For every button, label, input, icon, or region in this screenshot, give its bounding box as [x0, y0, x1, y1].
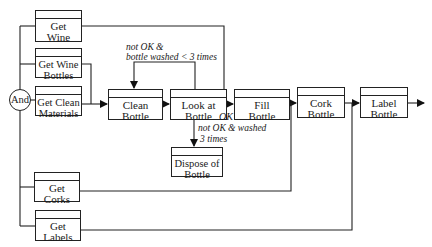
- get-clean-materials-box: Get Clean Materials: [35, 86, 82, 116]
- cork-bottle-label: Cork Bottle: [303, 96, 339, 120]
- get-wine-bottles-label: Get Wine Bottles: [36, 57, 81, 81]
- cork-bottle-box: Cork Bottle: [297, 87, 345, 118]
- fill-bottle-box: Fill Bottle: [234, 89, 290, 120]
- get-corks-box: Get Corks: [34, 172, 80, 202]
- get-clean-materials-label: Get Clean Materials: [36, 95, 81, 119]
- get-labels-label: Get Labels: [43, 219, 73, 243]
- box-header-bar: [361, 88, 407, 96]
- box-header-bar: [36, 49, 81, 57]
- box-header-bar: [235, 90, 289, 98]
- loop-condition-line2: bottle washed < 3 times: [126, 52, 217, 62]
- label-bottle-box: Label Bottle: [360, 87, 408, 118]
- get-wine-box: Get Wine: [35, 10, 82, 42]
- clean-bottle-box: Clean Bottle: [108, 89, 163, 120]
- get-corks-label: Get Corks: [42, 181, 72, 205]
- box-header-bar: [36, 11, 81, 19]
- dispose-condition-line1: not OK & washed: [198, 123, 266, 133]
- box-header-bar: [36, 87, 81, 95]
- fill-bottle-label: Fill Bottle: [244, 98, 280, 122]
- loop-condition-line1: not OK &: [126, 42, 163, 52]
- box-header-bar: [109, 90, 162, 98]
- label-bottle-label: Label Bottle: [366, 96, 402, 120]
- box-header-bar: [35, 173, 79, 181]
- clean-bottle-label: Clean Bottle: [118, 98, 154, 122]
- get-wine-label: Get Wine: [44, 19, 74, 43]
- dispose-of-bottle-label: Dispose of Bottle: [172, 156, 222, 180]
- get-labels-box: Get Labels: [35, 210, 81, 241]
- and-junction: And: [9, 89, 31, 111]
- box-header-bar: [36, 211, 80, 219]
- box-header-bar: [298, 88, 344, 96]
- dispose-condition-line2: 3 times: [200, 134, 227, 144]
- box-header-bar: [172, 148, 222, 156]
- ok-condition: OK: [219, 112, 233, 122]
- get-wine-bottles-box: Get Wine Bottles: [35, 48, 82, 78]
- look-at-bottle-label: Look at Bottle: [175, 98, 223, 122]
- dispose-of-bottle-box: Dispose of Bottle: [171, 147, 223, 177]
- box-header-bar: [171, 90, 226, 98]
